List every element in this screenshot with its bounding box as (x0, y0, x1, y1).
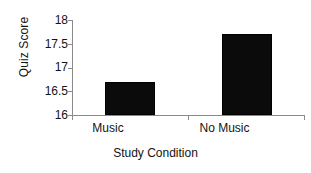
y-tick-mark-17-5 (68, 44, 72, 45)
x-tick-mark-center (188, 115, 189, 120)
plot-area (72, 20, 305, 115)
y-tick-label-16: 16 (34, 109, 68, 121)
bar-chart-figure: Quiz Score 18 17.5 17 16.5 16 Music No M… (0, 0, 311, 173)
x-tick-mark-left (72, 115, 73, 120)
x-axis-title: Study Condition (0, 146, 311, 160)
y-tick-label-18: 18 (34, 14, 68, 26)
y-tick-label-17-5: 17.5 (34, 38, 68, 50)
y-tick-mark-18 (68, 20, 72, 21)
bar-no-music (222, 34, 272, 115)
x-tick-label-music: Music (58, 122, 158, 135)
bar-music (105, 82, 155, 115)
y-tick-mark-17 (68, 68, 72, 69)
x-tick-label-no-music: No Music (172, 122, 277, 135)
y-tick-label-16-5: 16.5 (34, 85, 68, 97)
y-axis-line (72, 20, 73, 115)
x-tick-mark-right (304, 115, 305, 120)
y-tick-mark-16-5 (68, 91, 72, 92)
y-tick-label-17: 17 (34, 61, 68, 73)
y-axis-title: Quiz Score (17, 0, 31, 95)
